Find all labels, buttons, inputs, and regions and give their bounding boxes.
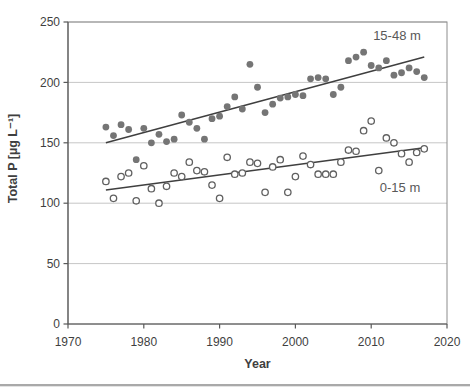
data-point-deep — [133, 156, 140, 163]
data-point-shallow — [194, 167, 200, 173]
data-point-shallow — [103, 178, 109, 184]
series-label-deep: 15-48 m — [368, 28, 426, 43]
data-point-shallow — [338, 159, 344, 165]
data-point-deep — [292, 91, 299, 98]
data-point-shallow — [383, 135, 389, 141]
data-point-deep — [315, 74, 322, 81]
y-tick-label: 0 — [53, 317, 60, 331]
data-point-shallow — [413, 149, 419, 155]
data-point-deep — [193, 125, 200, 132]
data-point-deep — [277, 95, 284, 102]
data-point-deep — [337, 84, 344, 91]
data-point-shallow — [391, 140, 397, 146]
x-tick-label: 1990 — [206, 335, 233, 349]
data-point-deep — [383, 57, 390, 64]
data-point-shallow — [133, 198, 139, 204]
data-point-deep — [398, 69, 405, 76]
data-point-deep — [360, 49, 367, 56]
data-point-shallow — [315, 171, 321, 177]
data-point-shallow — [269, 164, 275, 170]
data-point-shallow — [186, 159, 192, 165]
x-axis-title: Year — [197, 357, 318, 371]
data-point-deep — [368, 62, 375, 69]
data-point-shallow — [125, 170, 131, 176]
data-point-deep — [163, 138, 170, 145]
data-point-shallow — [300, 153, 306, 159]
data-point-deep — [413, 68, 420, 75]
data-point-deep — [178, 112, 185, 119]
data-point-deep — [140, 125, 147, 132]
data-point-shallow — [141, 163, 147, 169]
data-point-deep — [216, 113, 223, 120]
data-point-shallow — [398, 150, 404, 156]
data-point-deep — [406, 65, 413, 72]
data-point-shallow — [368, 118, 374, 124]
data-point-shallow — [247, 159, 253, 165]
data-point-shallow — [148, 186, 154, 192]
data-point-deep — [391, 72, 398, 79]
y-tick-label: 100 — [40, 196, 60, 210]
data-point-deep — [148, 139, 155, 146]
data-point-deep — [284, 93, 291, 100]
x-tick-label: 2000 — [282, 335, 309, 349]
data-point-deep — [269, 101, 276, 108]
data-point-shallow — [163, 183, 169, 189]
page-separator-line — [0, 384, 470, 387]
y-tick-label: 250 — [40, 15, 60, 29]
data-point-deep — [110, 132, 117, 139]
data-point-shallow — [285, 189, 291, 195]
y-tick-label: 200 — [40, 76, 60, 90]
x-tick-label: 2010 — [358, 335, 385, 349]
data-point-shallow — [201, 169, 207, 175]
data-point-shallow — [421, 146, 427, 152]
data-point-deep — [353, 54, 360, 61]
data-point-shallow — [277, 157, 283, 163]
data-point-deep — [375, 65, 382, 72]
data-point-shallow — [179, 173, 185, 179]
data-point-shallow — [254, 160, 260, 166]
data-point-deep — [118, 121, 125, 128]
series-label-shallow: 0-15 m — [376, 180, 424, 195]
data-point-deep — [224, 103, 231, 110]
data-point-deep — [125, 126, 132, 133]
data-point-shallow — [118, 173, 124, 179]
data-point-shallow — [376, 167, 382, 173]
data-point-shallow — [307, 161, 313, 167]
data-point-shallow — [239, 170, 245, 176]
data-point-shallow — [323, 171, 329, 177]
data-point-deep — [300, 92, 307, 99]
data-point-shallow — [232, 171, 238, 177]
data-point-shallow — [262, 189, 268, 195]
data-point-deep — [247, 61, 254, 68]
data-point-deep — [231, 93, 238, 100]
data-point-shallow — [292, 173, 298, 179]
data-point-deep — [262, 109, 269, 116]
data-point-shallow — [224, 154, 230, 160]
data-point-shallow — [110, 195, 116, 201]
data-point-deep — [171, 136, 178, 143]
data-point-deep — [421, 74, 428, 81]
y-tick-label: 50 — [47, 257, 61, 271]
data-point-deep — [330, 91, 337, 98]
data-point-deep — [156, 131, 163, 138]
data-point-deep — [345, 57, 352, 64]
data-point-deep — [201, 136, 208, 143]
data-point-shallow — [171, 170, 177, 176]
data-point-shallow — [406, 159, 412, 165]
data-point-shallow — [209, 182, 215, 188]
x-tick-label: 2020 — [434, 335, 461, 349]
data-point-deep — [239, 106, 246, 113]
data-point-shallow — [156, 200, 162, 206]
data-point-deep — [103, 124, 110, 131]
data-point-shallow — [353, 148, 359, 154]
y-axis-title: Total P [µg L⁻¹] — [5, 69, 22, 249]
data-point-deep — [186, 119, 193, 126]
data-point-shallow — [216, 195, 222, 201]
data-point-shallow — [330, 171, 336, 177]
figure-page: 050100150200250197019801990200020102020 … — [0, 0, 470, 391]
data-point-shallow — [360, 128, 366, 134]
y-tick-label: 150 — [40, 136, 60, 150]
data-point-deep — [322, 75, 329, 82]
data-point-deep — [307, 75, 314, 82]
plot-canvas: 050100150200250197019801990200020102020 — [0, 0, 470, 391]
